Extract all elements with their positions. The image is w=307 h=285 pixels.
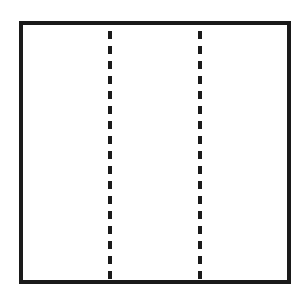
fold-lines: [23, 25, 287, 280]
outer-square: [19, 21, 291, 284]
